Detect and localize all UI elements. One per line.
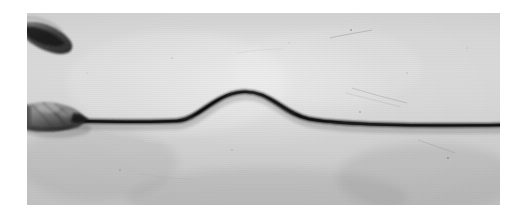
thumb-shadow-shape [27,18,72,54]
photograph [27,13,500,205]
photo-art-layer [27,13,500,205]
screenshot-root [0,0,526,223]
print-tone-blobs [27,28,500,205]
